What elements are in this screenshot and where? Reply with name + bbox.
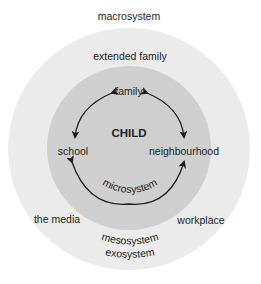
neighbourhood-label: neighbourhood — [149, 145, 219, 157]
ecological-systems-diagram: macrosystem extended family family CHILD… — [0, 0, 261, 284]
school-label: school — [58, 145, 88, 157]
extended-family-label: extended family — [93, 50, 167, 62]
macrosystem-label: macrosystem — [98, 10, 161, 22]
family-label: family — [115, 85, 143, 97]
child-label: CHILD — [111, 127, 146, 139]
workplace-label: workplace — [176, 214, 224, 226]
the-media-label: the media — [34, 213, 80, 225]
